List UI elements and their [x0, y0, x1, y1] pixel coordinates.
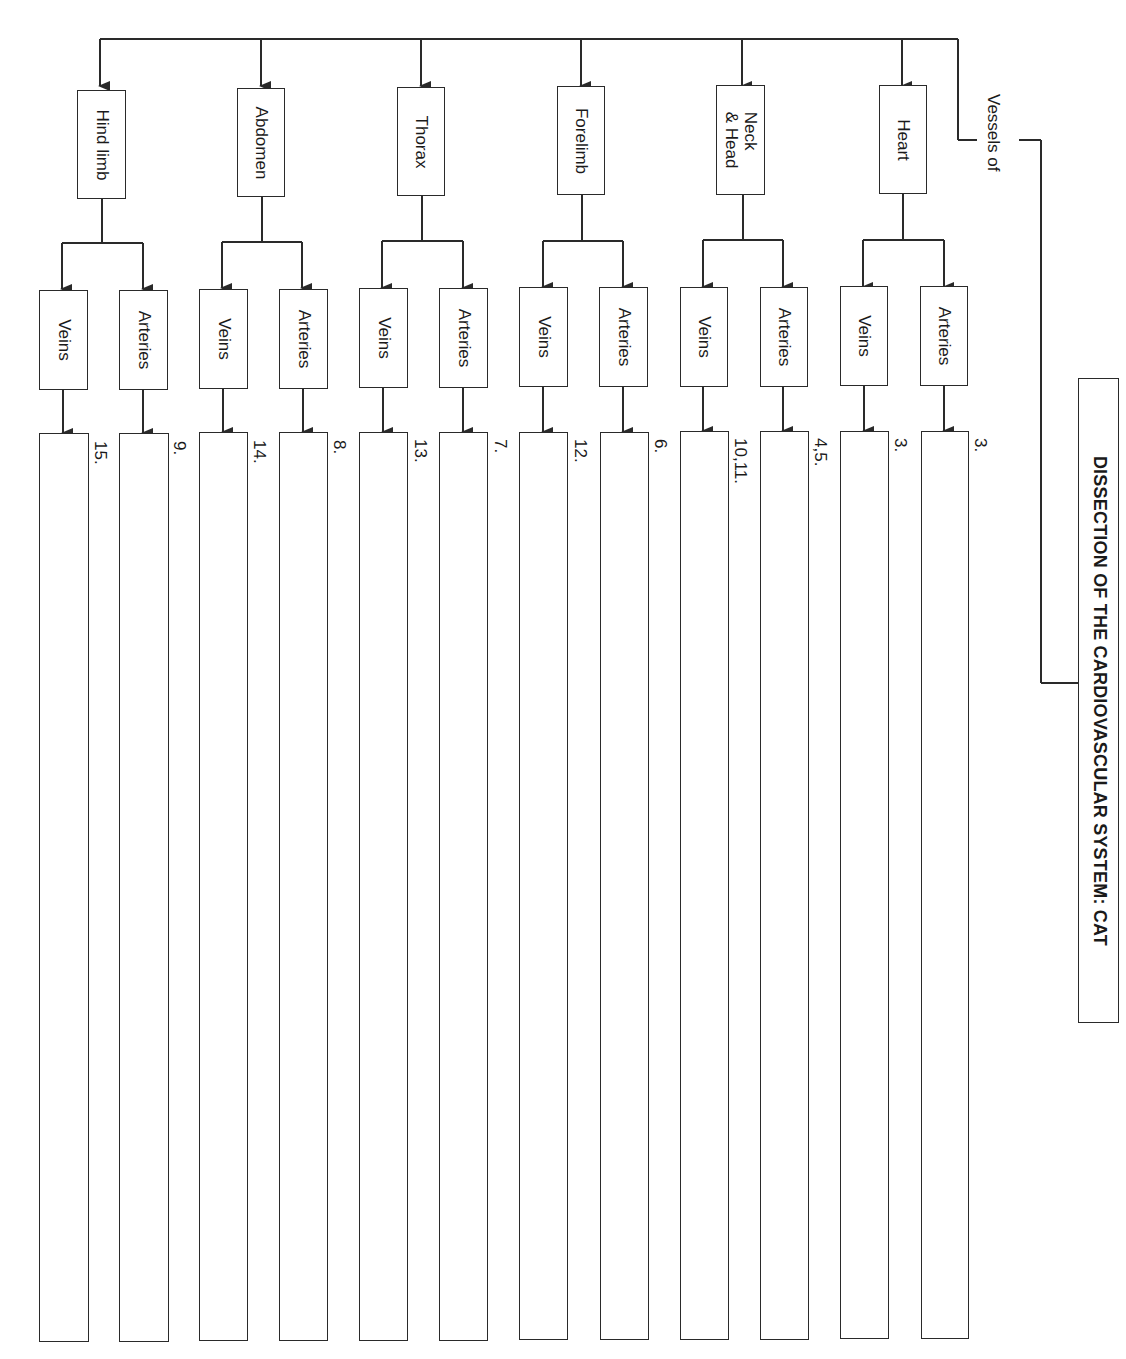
answer-box-neck-head-veins[interactable]	[680, 431, 729, 1340]
veins-label: Veins	[534, 316, 553, 358]
arteries-label: Arteries	[614, 308, 633, 367]
region-box-forelimb: Forelimb	[557, 86, 605, 195]
item-number-thorax-veins: 13.	[410, 439, 430, 463]
arteries-label: Arteries	[775, 308, 794, 367]
veins-label: Veins	[214, 318, 233, 360]
region-box-abdomen: Abdomen	[237, 88, 285, 197]
answer-box-abdomen-arteries[interactable]	[279, 432, 328, 1341]
answer-box-neck-head-arteries[interactable]	[760, 431, 809, 1340]
answer-box-abdomen-veins[interactable]	[199, 432, 248, 1341]
region-label-abdomen: Abdomen	[252, 106, 271, 179]
item-number-neck-head-veins: 10,11.	[730, 438, 750, 484]
forelimb-veins-box: Veins	[519, 287, 568, 387]
answer-box-forelimb-veins[interactable]	[519, 432, 568, 1340]
veins-label: Veins	[54, 319, 73, 361]
arteries-label: Arteries	[454, 309, 473, 368]
arteries-label: Arteries	[134, 311, 153, 370]
answer-box-thorax-veins[interactable]	[359, 432, 408, 1341]
region-label-heart: Heart	[894, 119, 913, 161]
forelimb-arteries-box: Arteries	[599, 287, 648, 387]
item-number-forelimb-arteries: 6.	[650, 439, 670, 453]
region-box-hind-limb: Hind limb	[77, 90, 126, 199]
veins-label: Veins	[374, 317, 393, 359]
item-number-abdomen-veins: 14.	[249, 440, 269, 464]
answer-box-hind-limb-arteries[interactable]	[119, 433, 169, 1342]
region-box-thorax: Thorax	[397, 87, 445, 196]
heart-arteries-box: Arteries	[920, 286, 968, 386]
thorax-arteries-box: Arteries	[439, 288, 488, 388]
neck-head-veins-box: Veins	[680, 287, 728, 387]
item-number-forelimb-veins: 12.	[570, 439, 590, 463]
item-number-hind-limb-arteries: 9.	[169, 441, 189, 455]
region-box-heart: Heart	[879, 85, 927, 194]
hind-limb-veins-box: Veins	[39, 290, 88, 390]
page-title: DISSECTION OF THE CARDIOVASCULAR SYSTEM:…	[1089, 455, 1108, 945]
arteries-label: Arteries	[294, 310, 313, 369]
item-number-heart-arteries: 3.	[970, 438, 990, 452]
abdomen-veins-box: Veins	[199, 289, 248, 389]
veins-label: Veins	[695, 316, 714, 358]
answer-box-heart-veins[interactable]	[840, 431, 889, 1339]
region-box-neck-head: Neck & Head	[716, 85, 765, 195]
root-label-vessels-of: Vessels of	[983, 94, 1003, 172]
arteries-label: Arteries	[935, 307, 954, 366]
veins-label: Veins	[855, 315, 874, 357]
region-label-line-1: Neck	[741, 112, 760, 169]
title-box: DISSECTION OF THE CARDIOVASCULAR SYSTEM:…	[1078, 378, 1119, 1023]
answer-box-heart-arteries[interactable]	[921, 431, 969, 1339]
item-number-hind-limb-veins: 15.	[90, 441, 110, 465]
region-label-line-2: & Head	[722, 112, 741, 169]
answer-box-thorax-arteries[interactable]	[439, 432, 488, 1341]
region-label-forelimb: Forelimb	[572, 107, 591, 173]
answer-box-forelimb-arteries[interactable]	[600, 432, 649, 1340]
item-number-abdomen-arteries: 8.	[329, 440, 349, 454]
hind-limb-arteries-box: Arteries	[119, 290, 168, 390]
abdomen-arteries-box: Arteries	[279, 289, 328, 389]
item-number-heart-veins: 3.	[890, 438, 910, 452]
thorax-veins-box: Veins	[359, 288, 408, 388]
region-label-hind-limb: Hind limb	[92, 109, 111, 180]
answer-box-hind-limb-veins[interactable]	[39, 433, 89, 1342]
item-number-neck-head-arteries: 4,5.	[810, 438, 830, 466]
region-label-neck-head: Neck & Head	[722, 112, 760, 169]
item-number-thorax-arteries: 7.	[490, 439, 510, 453]
region-label-thorax: Thorax	[412, 115, 431, 168]
heart-veins-box: Veins	[840, 286, 888, 386]
neck-head-arteries-box: Arteries	[760, 287, 808, 387]
